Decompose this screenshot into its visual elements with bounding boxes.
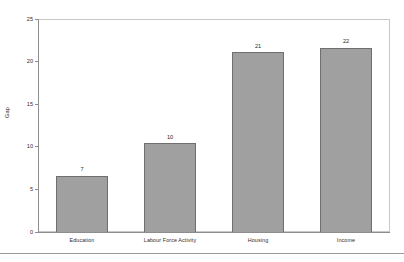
- bar-group[interactable]: 22: [320, 38, 372, 232]
- bar[interactable]: [56, 176, 108, 232]
- chart-title: [4, 0, 400, 5]
- y-axis-tick-label: 10: [27, 142, 33, 151]
- y-axis-tick-label: 15: [27, 100, 33, 109]
- x-axis-tick-label: Housing: [214, 237, 302, 243]
- x-axis-tick-label: Labour Force Activity: [126, 237, 214, 243]
- bar[interactable]: [144, 143, 196, 232]
- chart-page: 0510152025 Gap 7102122 EducationLabour F…: [0, 0, 404, 262]
- y-axis-tick-label: 5: [30, 185, 33, 194]
- bar-group[interactable]: 10: [144, 134, 196, 232]
- bar-value-label: 21: [255, 43, 261, 50]
- x-axis-tick-label: Education: [38, 237, 126, 243]
- bar-value-label: 22: [343, 38, 349, 45]
- y-axis-tick-mark: [35, 189, 38, 190]
- y-axis-tick-mark: [35, 146, 38, 147]
- y-axis-tick-mark: [35, 19, 38, 20]
- bar-value-label: 10: [167, 134, 173, 141]
- bar-group[interactable]: 7: [56, 166, 108, 232]
- bar[interactable]: [320, 48, 372, 232]
- bar-group[interactable]: 21: [232, 43, 284, 232]
- bar-value-label: 7: [80, 166, 83, 173]
- y-axis-tick-mark: [35, 61, 38, 62]
- y-axis-tick-label: 0: [30, 228, 33, 237]
- y-axis-line: [38, 19, 39, 233]
- y-axis-tick-label: 20: [27, 57, 33, 66]
- x-axis-line: [38, 232, 390, 233]
- bar[interactable]: [232, 52, 284, 232]
- x-axis-tick-label: Income: [302, 237, 390, 243]
- y-axis-title: Gap: [4, 107, 10, 118]
- y-axis-tick-mark: [35, 104, 38, 105]
- page-divider-rule: [0, 253, 404, 254]
- y-axis-tick-label: 25: [27, 15, 33, 24]
